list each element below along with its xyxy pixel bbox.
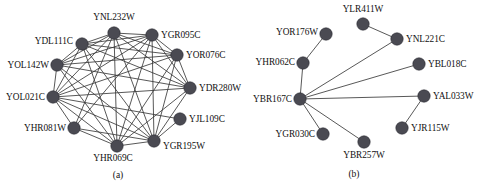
node-label-ylr411w: YLR411W xyxy=(343,4,384,14)
graph-node-yor176w[interactable] xyxy=(320,28,332,40)
node-label-ybl018c: YBL018C xyxy=(428,59,466,69)
figure-container: YNL232WYGR095CYDL111CYOR076CYOL142WYDR28… xyxy=(0,0,477,191)
graph-node-yhr062c[interactable] xyxy=(297,57,309,69)
node-label-yhr062c: YHR062C xyxy=(256,57,295,67)
graph-b xyxy=(0,0,477,191)
panel-caption-b: (b) xyxy=(348,169,359,179)
graph-node-yjr115w[interactable] xyxy=(396,122,408,134)
node-label-ynl221c: YNL221C xyxy=(406,34,445,44)
graph-node-ylr411w[interactable] xyxy=(357,18,369,30)
node-label-yal033w: YAL033W xyxy=(433,91,473,101)
graph-node-ybr167c[interactable] xyxy=(294,93,306,105)
node-label-yjr115w: YJR115W xyxy=(411,123,450,133)
graph-node-ygr030c[interactable] xyxy=(317,128,329,140)
node-label-ygr030c: YGR030C xyxy=(276,129,315,139)
graph-edge xyxy=(300,64,419,99)
graph-node-yal033w[interactable] xyxy=(418,90,430,102)
node-label-yor176w: YOR176W xyxy=(276,27,318,37)
node-label-ybr167c: YBR167C xyxy=(253,94,292,104)
graph-edge xyxy=(300,96,424,99)
graph-node-ynl221c[interactable] xyxy=(391,33,403,45)
node-label-ybr257w: YBR257W xyxy=(343,150,385,160)
graph-node-ybl018c[interactable] xyxy=(413,58,425,70)
graph-node-ybr257w[interactable] xyxy=(358,136,370,148)
